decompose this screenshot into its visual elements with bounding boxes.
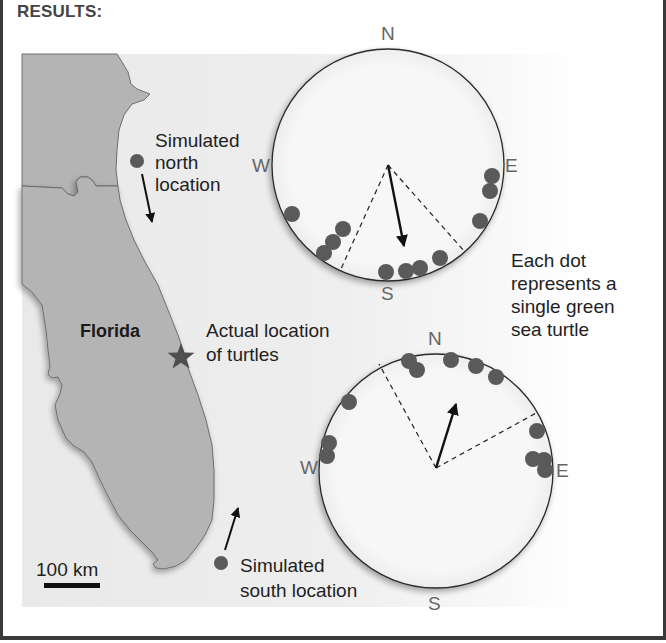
- compass-s-top: S: [381, 283, 394, 304]
- legend-line-4: sea turtle: [511, 319, 589, 340]
- south-location-label-2: south location: [240, 580, 357, 601]
- results-diagram: Florida Actual location of turtles Simul…: [0, 0, 666, 643]
- compass-n-top: N: [381, 23, 395, 44]
- scale-bar: [44, 583, 100, 588]
- compass-e-bottom: E: [556, 460, 569, 481]
- compass-e-top: E: [505, 155, 518, 176]
- north-release-orientation-plot: [272, 49, 504, 281]
- figure-frame: RESULTS:: [0, 0, 666, 643]
- compass-w-top: W: [252, 155, 270, 176]
- compass-s-bottom: S: [428, 593, 441, 614]
- legend-line-2: represents a: [511, 273, 617, 294]
- actual-location-label-1: Actual location: [206, 320, 330, 341]
- actual-location-label-2: of turtles: [206, 344, 279, 365]
- north-location-label-1: Simulated: [155, 130, 240, 151]
- legend-line-3: single green: [511, 296, 615, 317]
- florida-label: Florida: [80, 321, 141, 341]
- north-location-label-2: north: [155, 152, 198, 173]
- south-location-label-1: Simulated: [240, 555, 325, 576]
- north-location-dot: [130, 154, 144, 168]
- compass-w-bottom: W: [300, 457, 318, 478]
- compass-n-bottom: N: [428, 328, 442, 349]
- north-location-label-3: location: [155, 174, 221, 195]
- legend-line-1: Each dot: [511, 250, 587, 271]
- south-location-dot: [214, 556, 228, 570]
- scale-label: 100 km: [36, 559, 98, 580]
- south-release-orientation-plot: [319, 352, 553, 588]
